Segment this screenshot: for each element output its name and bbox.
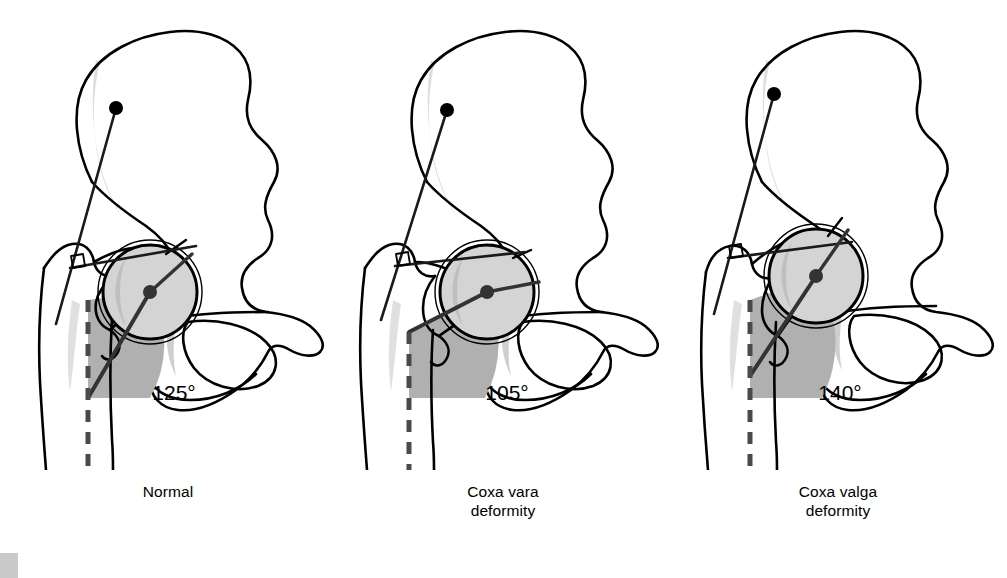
femur-shading [68, 300, 80, 392]
panel-caption-coxa-vara: Coxa vara deformity [335, 482, 671, 520]
panel-normal: 125° Normal [0, 0, 336, 578]
femoral-head-center-dot [143, 285, 157, 299]
femur-lateral-cortex [701, 272, 708, 470]
scan-artifact-block [0, 553, 18, 578]
obturator-foramen [849, 315, 942, 383]
caption-line-1: Coxa valga [670, 482, 1006, 501]
obturator-foramen [518, 321, 611, 389]
reference-point-dot [109, 101, 123, 115]
ilium-shading [763, 60, 794, 220]
hip-diagram-coxa-vara: 105° [335, 0, 671, 470]
greater-trochanter [706, 246, 772, 279]
femur-shading [730, 300, 742, 392]
caption-line-2: deformity [335, 501, 671, 520]
angle-label: 125° [152, 381, 195, 404]
caption-line-1: Coxa vara [335, 482, 671, 501]
caption-line-1: Normal [0, 482, 336, 501]
obturator-foramen [183, 321, 276, 389]
panel-coxa-vara: 105° Coxa vara deformity [335, 0, 671, 578]
femoral-head-center-dot [480, 285, 494, 299]
figure-root: 125° Normal [0, 0, 1007, 578]
ilium-shading [428, 60, 459, 220]
angle-label: 140° [818, 381, 861, 404]
femur-lateral-cortex [39, 268, 46, 470]
hip-diagram-coxa-valga: 140° [670, 0, 1006, 470]
panel-coxa-valga: 140° Coxa valga deformity [670, 0, 1006, 578]
reference-point-dot [440, 103, 454, 117]
femur-lateral-cortex [360, 268, 367, 470]
hip-diagram-normal: 125° [0, 0, 336, 470]
angle-label: 105° [485, 381, 528, 404]
femur-shading [389, 300, 401, 392]
panel-caption-coxa-valga: Coxa valga deformity [670, 482, 1006, 520]
caption-line-2: deformity [670, 501, 1006, 520]
panel-caption-normal: Normal [0, 482, 336, 501]
reference-point-dot [767, 87, 781, 101]
femoral-head-center-dot [809, 269, 823, 283]
greater-trochanter [44, 244, 114, 277]
pelvic-reference-line [714, 94, 774, 314]
